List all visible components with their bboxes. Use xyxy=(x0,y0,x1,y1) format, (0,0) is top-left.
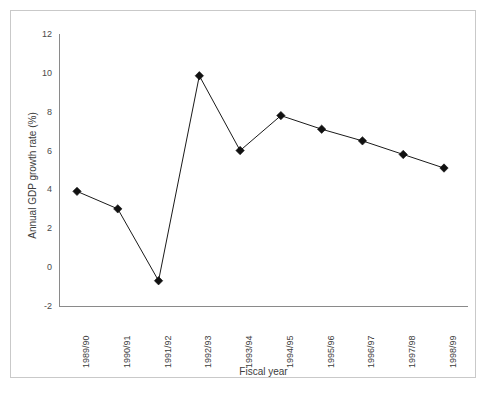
data-point-marker xyxy=(399,150,407,158)
data-point-marker xyxy=(73,187,81,195)
plot-area xyxy=(0,0,488,394)
data-point-marker xyxy=(440,164,448,172)
data-point-marker xyxy=(114,205,122,213)
data-point-marker xyxy=(195,72,203,80)
series-markers-group xyxy=(73,72,448,285)
chart-page: Annual GDP growth rate (%) Fiscal year -… xyxy=(0,0,488,394)
series-line-gdp-growth xyxy=(77,76,444,281)
data-point-marker xyxy=(317,125,325,133)
data-point-marker xyxy=(358,137,366,145)
data-point-marker xyxy=(154,277,162,285)
axes-group xyxy=(59,34,468,306)
